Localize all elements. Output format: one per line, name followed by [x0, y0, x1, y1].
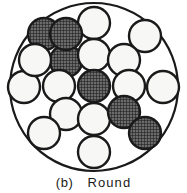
open-element-circle — [78, 136, 110, 168]
element-group — [8, 7, 179, 168]
bundle-diagram — [0, 0, 187, 176]
open-element-circle — [78, 103, 110, 135]
round-bundle-figure: (b) Round — [0, 0, 187, 193]
open-element-circle — [28, 117, 60, 149]
hatched-element-circle — [50, 18, 82, 50]
caption-title: Round — [87, 176, 131, 189]
caption-label: (b) — [56, 176, 74, 189]
open-element-circle — [43, 70, 75, 102]
open-element-circle — [147, 71, 179, 103]
open-element-circle — [78, 39, 110, 71]
hatched-element-circle — [129, 117, 161, 149]
hatched-element-circle — [78, 70, 110, 102]
open-element-circle — [19, 44, 51, 76]
caption: (b) Round — [0, 172, 187, 193]
